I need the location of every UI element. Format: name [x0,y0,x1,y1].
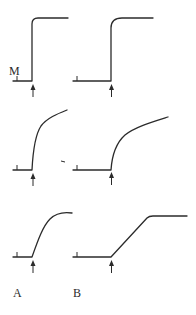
rise-trace [13,213,72,257]
column-label-a: A [13,286,22,300]
arrow-up-icon [109,260,114,273]
arrow-up-icon [31,84,36,97]
ramp-trace [73,216,187,257]
panel-row1-a: M [9,18,68,97]
column-label-b: B [73,286,81,300]
marker-label-m: M [9,64,20,78]
arrow-up-icon [31,260,36,273]
arrow-up-icon [109,172,114,185]
step-trace [73,18,153,81]
panel-row2-a [13,110,67,186]
panel-row3-b: B [73,216,187,300]
arrow-up-icon [31,173,36,186]
panel-row3-a: A [13,213,72,300]
panel-row2-b [73,117,168,185]
arrow-up-icon [109,84,114,97]
response-curves-diagram: M [0,0,196,315]
stray-mark [61,161,65,162]
rise-trace [73,117,168,170]
panel-row1-b [73,18,153,97]
rise-trace [13,110,67,170]
step-trace [13,18,68,81]
